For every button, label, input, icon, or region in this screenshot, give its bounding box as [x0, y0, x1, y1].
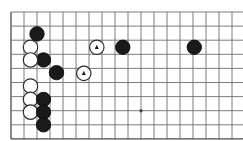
- black-stone-1: [30, 27, 44, 41]
- white-stone-disc: [23, 105, 37, 119]
- black-stone-disc: [30, 27, 44, 41]
- black-stone-6: [36, 92, 50, 106]
- board-canvas: [0, 0, 243, 141]
- black-stone-3: [49, 65, 63, 79]
- black-stone-disc: [36, 92, 50, 106]
- black-stone-8: [36, 118, 50, 132]
- white-stone-5: [23, 105, 37, 119]
- white-stone-disc: [23, 53, 37, 67]
- black-stone-4: [116, 40, 130, 54]
- black-stone-disc: [49, 65, 63, 79]
- white-stone-marked-1: [90, 40, 104, 54]
- star-points-layer: [139, 109, 142, 112]
- white-stone-3: [23, 79, 37, 93]
- white-stone-marked-2: [77, 66, 91, 80]
- black-stone-disc: [36, 53, 50, 67]
- black-stone-disc: [116, 40, 130, 54]
- black-stone-disc: [187, 40, 201, 54]
- black-stone-disc: [36, 105, 50, 119]
- black-stone-2: [36, 53, 50, 67]
- black-stone-disc: [36, 118, 50, 132]
- go-board-diagram: [0, 0, 243, 141]
- white-stone-2: [23, 53, 37, 67]
- black-stone-5: [187, 40, 201, 54]
- white-stone-disc: [23, 79, 37, 93]
- star-point-1-marker: [139, 109, 142, 112]
- black-stone-7: [36, 105, 50, 119]
